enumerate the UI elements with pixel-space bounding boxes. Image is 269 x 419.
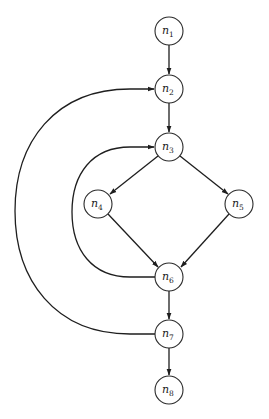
node-label: n: [162, 327, 169, 340]
node-n5: n5: [225, 190, 253, 218]
edge-n5-n6: [181, 214, 229, 267]
node-n3: n3: [155, 133, 183, 161]
control-flow-graph: n1 n2 n3 n4 n5 n6 n7 n8: [0, 0, 269, 419]
node-n4: n4: [84, 190, 112, 218]
edge-n4-n6: [108, 214, 158, 267]
node-label: n: [232, 197, 239, 210]
node-label: n: [91, 197, 98, 210]
node-label: n: [162, 24, 169, 37]
node-n7: n7: [155, 320, 183, 348]
node-n2: n2: [155, 75, 183, 103]
node-n8: n8: [155, 376, 183, 404]
edge-n3-n4: [110, 156, 158, 194]
node-label: n: [162, 270, 169, 283]
back-edge-n6-n3: [72, 147, 155, 277]
node-label: n: [162, 82, 169, 95]
node-label: n: [162, 383, 169, 396]
node-n6: n6: [155, 263, 183, 291]
node-n1: n1: [155, 17, 183, 45]
back-edge-n7-n2: [15, 89, 155, 334]
edges: [15, 45, 229, 375]
node-label: n: [162, 140, 169, 153]
edge-n3-n5: [180, 156, 228, 194]
